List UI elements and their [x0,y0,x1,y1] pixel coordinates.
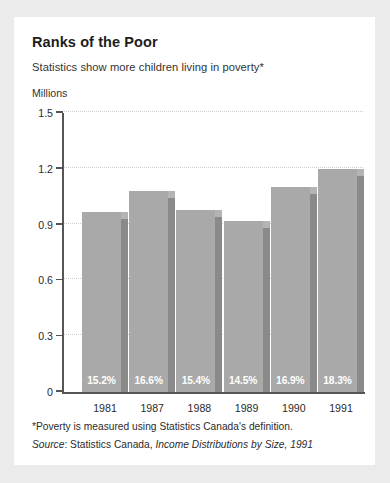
y-axis-tick-label: 1.2 [38,163,53,175]
bar-side-face [121,219,128,392]
chart-plot-inner: 00.30.60.91.21.5 15.2%198116.6%198715.4%… [62,113,348,392]
y-axis-tick-label: 0.3 [38,330,53,342]
bar-side-face [263,228,270,392]
bar-value-label: 14.5% [224,375,263,386]
source-agency: Statistics Canada, [70,439,155,450]
x-axis-tick-label: 1988 [176,402,222,414]
bar-front-face [271,187,310,392]
bar-side-face [168,198,175,392]
bar-value-label: 15.2% [82,375,121,386]
y-axis-tick-label: 1.5 [38,107,53,119]
bar-value-label: 16.6% [129,375,168,386]
x-axis-line [62,392,365,394]
y-axis-tick-label: 0.6 [38,274,53,286]
y-axis-tick-label: 0 [47,386,53,398]
bar-value-label: 15.4% [176,375,215,386]
x-axis-tick-label: 1989 [224,402,270,414]
bar-1990: 16.9%1990 [271,187,310,392]
bar-value-label: 16.9% [271,375,310,386]
bar-1991: 18.3%1991 [318,169,357,392]
bar-1989: 14.5%1989 [224,221,263,392]
bar-1987: 16.6%1987 [129,191,168,392]
bar-front-face [318,169,357,392]
y-axis-tick-label: 0.9 [38,219,53,231]
chart-plot-area: 00.30.60.91.21.5 15.2%198116.6%198715.4%… [62,113,348,392]
source-prefix: Source [32,439,64,450]
footnote: *Poverty is measured using Statistics Ca… [32,421,293,432]
source-publication: Income Distributions by Size, 1991 [155,439,313,450]
bar-side-face [310,194,317,392]
y-axis-unit-label: Millions [32,87,67,99]
x-axis-tick-label: 1991 [318,402,364,414]
bar-side-face [357,176,364,392]
bar-front-face [82,212,121,392]
bars-layer: 15.2%198116.6%198715.4%198814.5%198916.9… [62,113,348,392]
bar-front-face [224,221,263,392]
chart-card-inner: Ranks of the Poor Statistics show more c… [14,17,375,465]
bar-side-face [215,217,222,392]
bar-value-label: 18.3% [318,375,357,386]
page-title: Ranks of the Poor [32,34,158,50]
x-axis-tick-label: 1987 [129,402,175,414]
bar-front-face [129,191,168,392]
x-axis-tick-label: 1990 [271,402,317,414]
bar-front-face [176,210,215,392]
bar-1988: 15.4%1988 [176,210,215,392]
screenshot-root: Ranks of the Poor Statistics show more c… [0,0,390,483]
x-axis-tick-label: 1981 [82,402,128,414]
chart-subtitle: Statistics show more children living in … [32,61,264,73]
bar-1981: 15.2%1981 [82,212,121,392]
source-line: Source: Statistics Canada, Income Distri… [32,439,313,450]
chart-card: Ranks of the Poor Statistics show more c… [14,17,375,465]
